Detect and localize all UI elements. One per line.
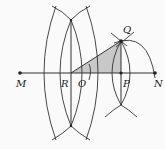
label-Q: Q — [123, 24, 131, 35]
point-bottom — [70, 125, 72, 127]
arc-bottom-cross-2 — [71, 126, 90, 140]
point-top — [70, 19, 72, 21]
diagram-canvas: M R O P N Q — [0, 0, 165, 149]
construction-svg: M R O P N Q — [0, 0, 165, 149]
label-O: O — [78, 78, 86, 89]
label-M: M — [15, 78, 27, 89]
label-P: P — [122, 78, 130, 89]
arc-bottom-cross-1 — [52, 126, 71, 140]
point-Q — [119, 39, 123, 43]
label-N: N — [153, 78, 164, 89]
point-N — [153, 71, 157, 75]
arc-bottom-P-2 — [121, 105, 137, 117]
arc-bottom-P-1 — [105, 105, 121, 117]
label-R: R — [60, 78, 69, 89]
point-M — [18, 71, 22, 75]
point-P — [119, 71, 122, 74]
